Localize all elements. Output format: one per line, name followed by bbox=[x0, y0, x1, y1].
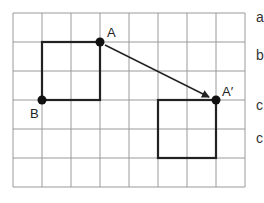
point-a-prime bbox=[212, 96, 221, 105]
label-b: B bbox=[30, 106, 39, 121]
option-b-label: b bbox=[256, 48, 264, 62]
label-a: A bbox=[107, 25, 116, 40]
translation-diagram: A B A′ bbox=[0, 0, 264, 203]
option-d-label: c bbox=[256, 131, 263, 145]
point-a bbox=[96, 38, 105, 47]
point-b bbox=[38, 96, 47, 105]
option-a-label: a bbox=[256, 10, 264, 24]
label-a-prime: A′ bbox=[222, 84, 234, 99]
option-c-label: c bbox=[256, 98, 263, 112]
